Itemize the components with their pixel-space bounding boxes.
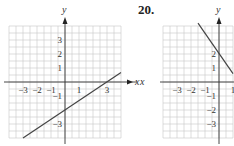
y-tick-label: −2 — [206, 105, 216, 115]
y-tick-label: 2 — [58, 49, 63, 59]
x-tick-label: 1 — [231, 85, 234, 95]
y-tick-label: −3 — [52, 119, 62, 129]
y-tick-label: −1 — [206, 91, 216, 101]
x-tick-label: 3 — [105, 85, 110, 95]
y-axis-label: y — [61, 4, 67, 15]
y-axis-arrow — [217, 17, 222, 24]
y-tick-label: 1 — [58, 63, 63, 73]
graph-right: yx−3−2−1121−1−2−3 — [131, 4, 234, 144]
x-tick-label: −3 — [172, 85, 182, 95]
y-tick-label: −1 — [52, 91, 62, 101]
x-tick-label: −2 — [186, 85, 196, 95]
x-tick-label: −2 — [32, 85, 42, 95]
y-axis-label: y — [215, 4, 221, 15]
y-tick-label: 1 — [212, 63, 217, 73]
graph-left: yx−3−2−113321−1−3 — [4, 4, 140, 144]
x-axis-label: x — [139, 76, 145, 87]
y-tick-label: 3 — [58, 35, 63, 45]
problem-number: 20. — [138, 2, 154, 17]
x-tick-label: −3 — [18, 85, 28, 95]
y-axis-arrow — [63, 17, 68, 24]
y-tick-label: −3 — [206, 119, 216, 129]
chart-canvas: 20. yx−3−2−113321−1−3 yx−3−2−1121−1−2−3 — [0, 0, 234, 146]
x-tick-label: 1 — [77, 85, 82, 95]
y-tick-label: 2 — [212, 49, 217, 59]
